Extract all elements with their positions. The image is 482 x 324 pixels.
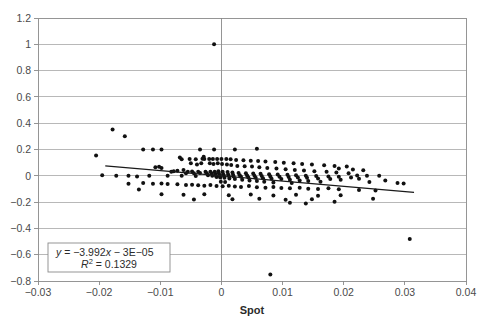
data-point: [310, 163, 314, 167]
data-point: [196, 183, 200, 187]
data-point: [357, 188, 361, 192]
data-point: [141, 148, 145, 152]
data-point: [175, 182, 179, 186]
data-point: [284, 198, 288, 202]
data-point: [255, 147, 259, 151]
data-point: [192, 197, 196, 201]
y-tick-label: −0.2: [10, 196, 31, 208]
data-point: [234, 158, 238, 162]
data-point: [190, 183, 194, 187]
data-point: [322, 163, 326, 167]
data-point: [383, 178, 387, 182]
data-point: [371, 197, 375, 201]
x-tick-label: 0.01: [272, 286, 293, 298]
data-point: [160, 192, 164, 196]
data-point: [111, 128, 115, 132]
data-point: [219, 180, 223, 184]
data-point: [182, 168, 186, 172]
gridlines-group: [38, 44, 466, 254]
data-point: [223, 180, 227, 184]
data-point: [137, 188, 141, 192]
data-point: [357, 177, 361, 181]
data-point: [212, 148, 216, 152]
y-tick-label: 0.8: [16, 64, 31, 76]
data-point: [316, 194, 320, 198]
data-point: [233, 185, 237, 189]
data-point: [402, 181, 406, 185]
data-point: [339, 178, 343, 182]
data-point: [367, 180, 371, 184]
data-point: [220, 162, 224, 166]
data-point: [298, 186, 302, 190]
data-point: [361, 168, 365, 172]
data-point: [216, 161, 220, 165]
data-point: [151, 182, 155, 186]
data-point: [243, 164, 247, 168]
x-axis-tick-labels-group: −0.03−0.02−0.0100.010.020.030.04: [25, 286, 477, 298]
data-point: [188, 157, 192, 161]
data-point: [279, 186, 283, 190]
data-point: [250, 165, 254, 169]
data-point: [377, 174, 381, 178]
data-point: [257, 197, 261, 201]
data-point: [208, 161, 212, 165]
data-point: [271, 194, 275, 198]
data-point: [135, 174, 139, 178]
data-point: [294, 193, 298, 197]
x-tick-label: −0.03: [25, 286, 52, 298]
data-point: [123, 134, 127, 138]
data-point: [160, 166, 164, 170]
data-point: [337, 167, 341, 171]
x-tick-label: −0.02: [86, 286, 113, 298]
data-point: [235, 164, 239, 168]
x-tick-label: −0.01: [147, 286, 174, 298]
data-point: [282, 161, 286, 165]
x-tick-label: 0.04: [456, 286, 477, 298]
y-tick-label: 0.6: [16, 91, 31, 103]
data-point: [325, 170, 329, 174]
data-point: [229, 163, 233, 167]
data-point: [318, 180, 322, 184]
data-point: [194, 157, 198, 161]
y-tick-label: 0: [25, 170, 31, 182]
equation-text: y = −3.992x − 3E−05: [55, 246, 154, 258]
data-point: [292, 161, 296, 165]
data-point: [306, 187, 310, 191]
data-point: [265, 166, 269, 170]
data-point: [326, 186, 330, 190]
data-point: [302, 169, 306, 173]
data-point: [147, 174, 151, 178]
data-point: [230, 197, 234, 201]
y-tick-label: 0.4: [16, 117, 31, 129]
data-point: [273, 160, 277, 164]
y-tick-label: −0.6: [10, 248, 31, 260]
data-point: [316, 187, 320, 191]
data-point: [365, 174, 369, 178]
data-point: [202, 184, 206, 188]
data-point: [114, 174, 118, 178]
data-point: [288, 186, 292, 190]
trendline: [105, 166, 414, 193]
data-point: [195, 163, 199, 167]
data-points-group: [94, 42, 412, 276]
data-point: [241, 158, 245, 162]
data-point: [126, 182, 130, 186]
data-point: [240, 178, 244, 182]
data-point: [227, 193, 231, 197]
data-point: [257, 165, 261, 169]
y-tick-label: 1.2: [16, 12, 31, 24]
data-point: [249, 159, 253, 163]
data-point: [141, 181, 145, 185]
data-point: [248, 178, 252, 182]
trendline-group: [105, 166, 414, 193]
y-axis-ticks-group: [34, 18, 38, 281]
data-point: [215, 184, 219, 188]
data-point: [233, 148, 237, 152]
data-point: [349, 175, 353, 179]
data-point: [310, 197, 314, 201]
data-point: [239, 185, 243, 189]
data-point: [202, 157, 206, 161]
y-tick-label: −0.8: [10, 275, 31, 287]
data-point: [255, 185, 259, 189]
data-point: [268, 272, 272, 276]
